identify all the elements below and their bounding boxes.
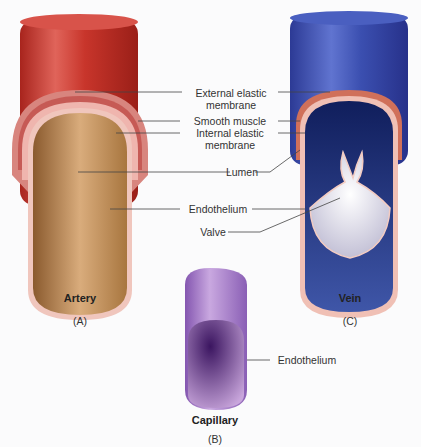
- label-text: membrane: [206, 99, 256, 111]
- label-internal-elastic: Internal elastic membrane: [180, 127, 280, 151]
- label-text: Internal elastic: [196, 127, 264, 139]
- label-smooth-muscle: Smooth muscle: [180, 115, 280, 127]
- label-text: External elastic: [195, 87, 266, 99]
- artery-illustration: [12, 14, 148, 320]
- vein-illustration: [290, 11, 408, 318]
- artery-title: Artery: [50, 292, 110, 304]
- label-capillary-endothelium: Endothelium: [272, 354, 342, 366]
- label-lumen: Lumen: [225, 166, 259, 178]
- vein-panel: (C): [320, 315, 380, 327]
- capillary-title: Capillary: [180, 414, 250, 426]
- vessel-illustration: [0, 0, 421, 447]
- label-endothelium: Endothelium: [182, 203, 254, 215]
- vein-title: Vein: [320, 292, 380, 304]
- capillary-illustration: [185, 268, 247, 410]
- label-external-elastic: External elastic membrane: [183, 87, 279, 111]
- label-valve: Valve: [198, 226, 228, 238]
- label-text: membrane: [205, 139, 255, 151]
- artery-panel: (A): [50, 315, 110, 327]
- capillary-panel: (B): [180, 433, 250, 445]
